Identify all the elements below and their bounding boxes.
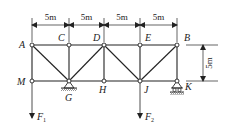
truss-members — [32, 45, 177, 81]
node-g — [67, 79, 71, 83]
label-g: G — [65, 92, 72, 103]
node-k — [175, 79, 179, 83]
dim-label-3: 5m — [116, 12, 128, 22]
node-h — [102, 79, 106, 83]
label-h: H — [98, 84, 107, 95]
dim-label-4: 5m — [153, 12, 165, 22]
truss-diagram: 5m 5m 5m 5m 5m F1 F2 — [0, 0, 229, 128]
label-e: E — [144, 32, 151, 43]
node-e — [138, 43, 142, 47]
node-c — [67, 43, 71, 47]
label-m: M — [16, 76, 26, 87]
node-b — [175, 43, 179, 47]
label-j: J — [144, 84, 149, 95]
load-f1-label: F1 — [36, 111, 46, 123]
label-a: A — [18, 39, 26, 50]
dim-label-height: 5m — [204, 57, 214, 69]
dim-label-1: 5m — [45, 12, 57, 22]
dim-label-2: 5m — [81, 12, 93, 22]
node-m — [30, 79, 34, 83]
label-c: C — [58, 32, 65, 43]
node-a — [30, 43, 34, 47]
node-d — [102, 43, 106, 47]
label-b: B — [184, 32, 190, 43]
label-d: D — [92, 32, 101, 43]
node-j — [138, 79, 142, 83]
load-arrows — [32, 81, 140, 118]
label-k: K — [184, 81, 193, 92]
load-f2-label: F2 — [144, 111, 154, 123]
